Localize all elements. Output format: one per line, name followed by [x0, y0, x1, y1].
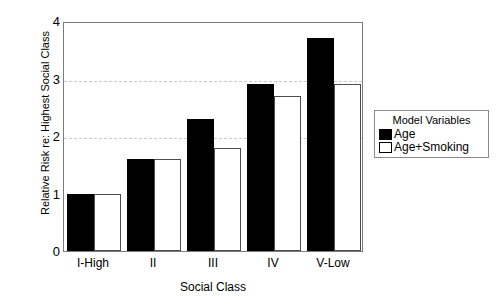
- bar-age[interactable]: [67, 194, 94, 252]
- x-tick-label: IV: [267, 256, 278, 270]
- bar-group: [247, 23, 301, 251]
- y-axis-ticks: 01234: [44, 0, 60, 308]
- bar-group: [67, 23, 121, 251]
- bar-age-smoking[interactable]: [94, 194, 121, 252]
- y-tick-label: 4: [46, 15, 60, 28]
- x-axis-ticks: I-HighIIIIIIVV-Low: [63, 256, 363, 274]
- bar-group: [307, 23, 361, 251]
- bar-age[interactable]: [307, 38, 334, 251]
- bar-age[interactable]: [127, 159, 154, 251]
- bar-age-smoking[interactable]: [334, 84, 361, 251]
- legend-item-label: Age+Smoking: [394, 141, 469, 153]
- legend-item-label: Age: [394, 128, 415, 140]
- x-tick-label: V-Low: [316, 256, 349, 270]
- y-tick-label: 2: [46, 130, 60, 143]
- x-tick-label: II: [150, 256, 157, 270]
- bar-age[interactable]: [187, 119, 214, 251]
- bar-age-smoking[interactable]: [274, 96, 301, 251]
- plot-area: [63, 22, 363, 252]
- chart-figure: Relative Risk re: Highest Social Class 0…: [0, 0, 498, 308]
- y-tick-label: 3: [46, 73, 60, 86]
- x-tick-label: I-High: [77, 256, 109, 270]
- y-tick-label: 1: [46, 188, 60, 201]
- x-tick-label: III: [208, 256, 218, 270]
- legend-entries: AgeAge+Smoking: [379, 128, 484, 153]
- bar-age-smoking[interactable]: [154, 159, 181, 251]
- x-axis-title: Social Class: [63, 280, 363, 294]
- bar-age-smoking[interactable]: [214, 148, 241, 252]
- legend-swatch-icon: [379, 129, 392, 140]
- bar-group: [127, 23, 181, 251]
- legend-item[interactable]: Age: [379, 128, 484, 140]
- legend-item[interactable]: Age+Smoking: [379, 141, 484, 153]
- legend-swatch-icon: [379, 142, 392, 153]
- legend-title: Model Variables: [379, 114, 484, 126]
- y-tick-label: 0: [46, 245, 60, 258]
- bar-group: [187, 23, 241, 251]
- bars-layer: [64, 23, 362, 251]
- bar-age[interactable]: [247, 84, 274, 251]
- legend: Model Variables AgeAge+Smoking: [374, 110, 489, 158]
